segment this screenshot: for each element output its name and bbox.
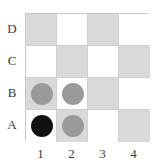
column-label-1: 1 [25, 144, 56, 164]
board-square-4d[interactable] [119, 14, 150, 46]
row-label-a: A [0, 109, 24, 141]
board-square-2b[interactable] [57, 78, 88, 110]
board-square-3b[interactable] [88, 78, 119, 110]
gray-piece[interactable] [62, 115, 84, 137]
column-label-2: 2 [56, 144, 87, 164]
board-square-3d[interactable] [88, 14, 119, 46]
column-label-4: 4 [118, 144, 149, 164]
row-label-b: B [0, 77, 24, 109]
board-square-1a[interactable] [26, 110, 57, 142]
board-square-2a[interactable] [57, 110, 88, 142]
row-label-d: D [0, 13, 24, 45]
board-square-2c[interactable] [57, 46, 88, 78]
gray-piece[interactable] [62, 83, 84, 105]
board-square-3c[interactable] [88, 46, 119, 78]
board-square-1d[interactable] [26, 14, 57, 46]
board-square-4a[interactable] [119, 110, 150, 142]
black-piece[interactable] [31, 115, 53, 137]
board-square-4b[interactable] [119, 78, 150, 110]
board-figure: D C B A 1 2 3 4 [0, 0, 158, 166]
row-label-c: C [0, 45, 24, 77]
board-square-1b[interactable] [26, 78, 57, 110]
column-label-3: 3 [87, 144, 118, 164]
board-grid [25, 13, 149, 141]
board-square-3a[interactable] [88, 110, 119, 142]
board-square-4c[interactable] [119, 46, 150, 78]
board-square-2d[interactable] [57, 14, 88, 46]
board-square-1c[interactable] [26, 46, 57, 78]
gray-piece[interactable] [31, 83, 53, 105]
